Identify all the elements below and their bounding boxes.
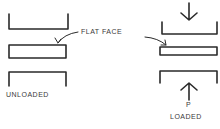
loaded-label: LOADED [170,113,202,120]
leader-arrowhead-left-icon [55,38,61,43]
leader-line-right [145,37,166,45]
load-arrow-up-icon [181,83,197,100]
leader-line-left [58,32,78,43]
unloaded-label: UNLOADED [6,91,49,98]
loaded-bottom-platen [160,71,217,83]
unloaded-bottom-platen [9,72,66,86]
load-arrow-down-icon [181,3,197,20]
compression-diagram [0,0,220,129]
flat-face-label: FLAT FACE [81,28,122,35]
load-p-label: P [186,101,191,108]
loaded-specimen [160,47,217,55]
loaded-top-platen [162,22,217,34]
unloaded-top-platen [9,14,68,29]
unloaded-specimen [9,45,66,58]
